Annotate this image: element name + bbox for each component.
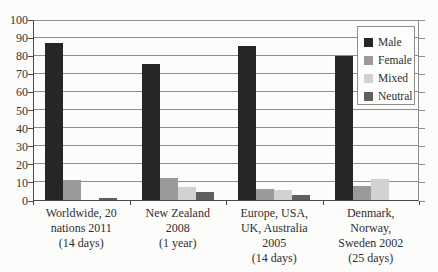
y-axis-right-tick-mark [419, 182, 425, 183]
bar-group-4 [335, 20, 407, 200]
x-axis-category-label-line: Worldwide, 20 [25, 206, 137, 221]
x-axis-category-label-line: 2008 [122, 221, 234, 236]
y-axis-tick-label: 100 [0, 12, 28, 28]
y-axis-tick-label: 30 [0, 139, 28, 155]
bar-neutral-1 [99, 198, 117, 200]
bar-female-4 [353, 186, 371, 200]
y-axis-tick-mark [28, 56, 33, 57]
y-axis-right-tick-mark [419, 110, 425, 111]
bar-female-3 [256, 189, 274, 200]
x-axis-category-label-line: Europe, USA, [218, 206, 330, 221]
y-axis-tick-label: 60 [0, 84, 28, 100]
y-axis-right-tick-mark [419, 74, 425, 75]
x-axis-tick-mark [130, 201, 131, 205]
bar-mixed-2 [178, 187, 196, 200]
x-axis-category-label-line: Norway, [315, 221, 427, 236]
x-axis-tick-mark [323, 201, 324, 205]
x-axis-category-label: New Zealand2008(1 year) [122, 206, 234, 251]
y-axis-right-tick-mark [419, 20, 425, 21]
x-axis-category-label-line: (14 days) [218, 251, 330, 266]
x-axis-category-label: Worldwide, 20nations 2011(14 days) [25, 206, 137, 251]
y-axis-right-tick-mark [419, 128, 425, 129]
x-axis-tick-mark [419, 201, 420, 205]
y-axis-tick-mark [28, 38, 33, 39]
x-axis-category-label-line: (1 year) [122, 236, 234, 251]
x-axis-category-label-line: New Zealand [122, 206, 234, 221]
y-axis-tick-mark [28, 74, 33, 75]
y-axis-tick-label: 20 [0, 157, 28, 173]
y-axis-tick-label: 90 [0, 30, 28, 46]
y-axis-tick-label: 80 [0, 48, 28, 64]
y-axis-right-tick-mark [419, 164, 425, 165]
y-axis-tick-mark [28, 182, 33, 183]
x-axis-category-label-line: (25 days) [315, 251, 427, 266]
bar-male-2 [142, 64, 160, 200]
x-axis-category-label-line: Sweden 2002 [315, 236, 427, 251]
y-axis-tick-mark [28, 110, 33, 111]
bar-chart-figure: 0102030405060708090100 Worldwide, 20nati… [0, 0, 438, 272]
x-axis-category-label-line: (14 days) [25, 236, 137, 251]
bar-group-1 [45, 20, 117, 200]
bar-male-3 [238, 46, 256, 200]
x-axis-category-label: Europe, USA,UK, Australia2005(14 days) [218, 206, 330, 266]
x-axis-category-label: Denmark,Norway,Sweden 2002(25 days) [315, 206, 427, 266]
bar-mixed-3 [274, 190, 292, 200]
x-axis-category-label-line: nations 2011 [25, 221, 137, 236]
y-axis-tick-mark [28, 164, 33, 165]
x-axis-tick-mark [33, 201, 34, 205]
bar-neutral-2 [196, 192, 214, 200]
y-axis-right-tick-mark [419, 146, 425, 147]
y-axis-right-tick-mark [419, 38, 425, 39]
bar-group-3 [238, 20, 310, 200]
x-axis-category-label-line: UK, Australia [218, 221, 330, 236]
y-axis-right-tick-mark [419, 56, 425, 57]
y-axis-tick-label: 10 [0, 175, 28, 191]
y-axis-tick-mark [28, 20, 33, 21]
bar-male-4 [335, 56, 353, 200]
y-axis-tick-label: 70 [0, 66, 28, 82]
bar-neutral-3 [292, 195, 310, 200]
bar-mixed-4 [371, 179, 389, 200]
y-axis-tick-label: 40 [0, 121, 28, 137]
bar-group-2 [142, 20, 214, 200]
y-axis-tick-mark [28, 92, 33, 93]
x-axis-tick-mark [226, 201, 227, 205]
bar-female-1 [63, 180, 81, 200]
y-axis-right-tick-mark [419, 92, 425, 93]
x-axis-category-label-line: Denmark, [315, 206, 427, 221]
bar-male-1 [45, 43, 63, 200]
y-axis-tick-label: 0 [0, 193, 28, 209]
y-axis-tick-label: 50 [0, 103, 28, 119]
x-axis-category-label-line: 2005 [218, 236, 330, 251]
y-axis-tick-mark [28, 146, 33, 147]
y-axis-tick-mark [28, 128, 33, 129]
bar-female-2 [160, 178, 178, 200]
